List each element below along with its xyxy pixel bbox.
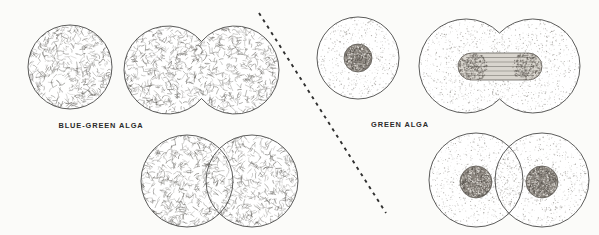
panel-label-green: GREEN ALGA bbox=[371, 120, 429, 129]
panel-label-blue-green: BLUE-GREEN ALGA bbox=[58, 121, 143, 130]
nucleus bbox=[460, 166, 492, 198]
green-single-cell bbox=[317, 17, 399, 99]
nucleus bbox=[344, 44, 372, 72]
mitotic-spindle bbox=[457, 50, 543, 83]
blue-green-dividing-cell bbox=[119, 23, 282, 118]
nucleus bbox=[526, 166, 558, 198]
blue-green-single-cell bbox=[26, 22, 117, 113]
green-two-daughter-cells bbox=[429, 133, 589, 227]
green-dividing-cell bbox=[419, 19, 580, 113]
panel-green: GREEN ALGA bbox=[317, 17, 589, 227]
blue-green-two-daughter-cells bbox=[136, 130, 302, 231]
cell-division-diagram: BLUE-GREEN ALGAGREEN ALGA bbox=[0, 0, 599, 235]
panel-blue-green: BLUE-GREEN ALGA bbox=[26, 22, 302, 231]
diagram-canvas: BLUE-GREEN ALGAGREEN ALGA bbox=[0, 0, 599, 235]
